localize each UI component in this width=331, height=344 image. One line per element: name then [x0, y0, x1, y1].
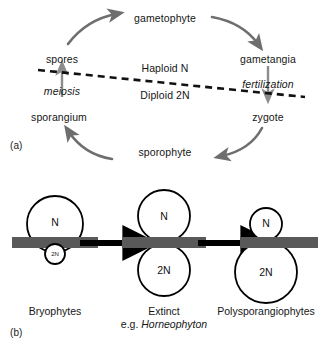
- ploidy-label-diploid: Diploid 2N: [140, 89, 189, 101]
- caption-extinct-line2: e.g. Horneophyton: [121, 318, 207, 331]
- caption-extinct-genus: Horneophyton: [141, 318, 207, 330]
- arrow-sporophyte-to-sporangium: [69, 132, 112, 159]
- figure-root: gametophyte gametangia zygote sporophyte…: [0, 0, 331, 344]
- polysporangiophytes-substrate-bar: [240, 237, 318, 248]
- bryophytes-sporophyte-label: 2N: [51, 251, 59, 257]
- polysporangiophytes-gametophyte-label: N: [262, 217, 270, 229]
- caption-extinct: Extinct e.g. Horneophyton: [121, 305, 207, 331]
- ploidy-label-haploid: Haploid N: [141, 62, 188, 74]
- cycle-node-gametangia: gametangia: [240, 53, 296, 65]
- caption-extinct-eg: e.g.: [121, 318, 141, 330]
- extinct-substrate-bar: [122, 237, 206, 248]
- arrow-spores-to-gametophyte: [68, 14, 116, 44]
- caption-polysporangiophytes: Polysporangiophytes: [217, 305, 314, 318]
- panel-b-evolutionary-series: N 2N N 2N N 2N Bryophytes Extinct e.g. H…: [0, 180, 331, 344]
- extinct-sporophyte-label: 2N: [157, 264, 170, 276]
- cycle-node-sporophyte: sporophyte: [139, 146, 192, 158]
- cycle-node-spores: spores: [46, 53, 78, 65]
- bryophytes-gametophyte-label: N: [51, 216, 59, 228]
- process-label-meiosis: meiosis: [44, 85, 80, 97]
- panel-tag-b: (b): [10, 327, 23, 339]
- cycle-node-gametophyte: gametophyte: [134, 12, 196, 24]
- polysporangiophytes-sporophyte-label: 2N: [259, 266, 272, 278]
- cycle-node-zygote: zygote: [252, 111, 284, 123]
- caption-extinct-line1: Extinct: [121, 305, 207, 318]
- process-label-fertilization: fertilization: [242, 78, 294, 90]
- arrow-gametophyte-to-gametangia: [212, 17, 258, 44]
- panel-a-life-cycle: gametophyte gametangia zygote sporophyte…: [0, 0, 331, 180]
- caption-bryophytes: Bryophytes: [29, 305, 82, 318]
- panel-tag-a: (a): [10, 140, 23, 152]
- cycle-node-sporangium: sporangium: [31, 111, 87, 123]
- arrow-zygote-to-sporophyte: [222, 128, 262, 156]
- extinct-gametophyte-label: N: [160, 210, 168, 222]
